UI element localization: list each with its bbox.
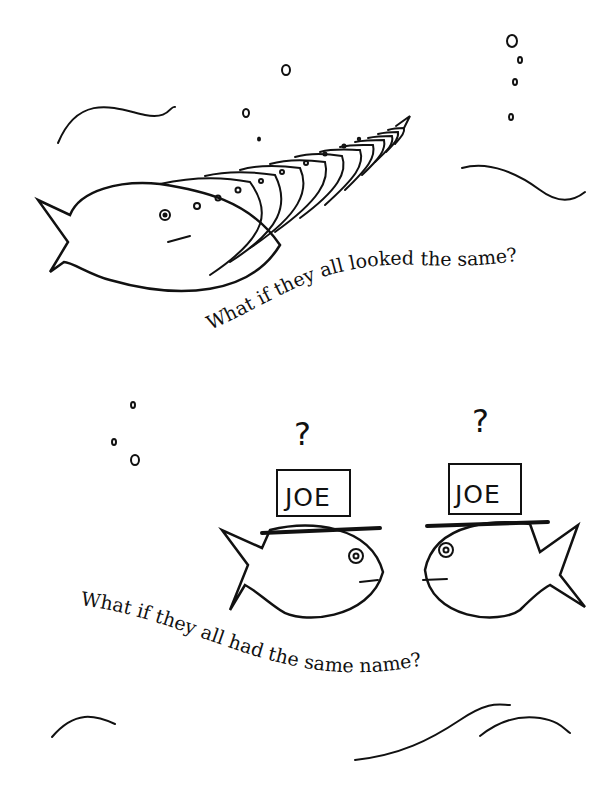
fish-left-icon: ? JOE — [222, 415, 383, 618]
caption-bottom: What if they all had the same name? — [80, 587, 423, 676]
caption-top: What if they all looked the same? — [203, 243, 519, 334]
fish-right-icon: ? JOE — [423, 402, 585, 617]
svg-text:JOE: JOE — [453, 480, 501, 509]
illustration-canvas: What if they all looked the same? ? JOE … — [0, 0, 610, 796]
svg-text:?: ? — [472, 402, 489, 440]
wave-lines-bottom — [52, 704, 570, 760]
svg-text:?: ? — [294, 415, 311, 453]
svg-text:JOE: JOE — [283, 483, 331, 512]
bubbles-bottom — [112, 402, 139, 465]
bubbles-top — [243, 35, 522, 141]
